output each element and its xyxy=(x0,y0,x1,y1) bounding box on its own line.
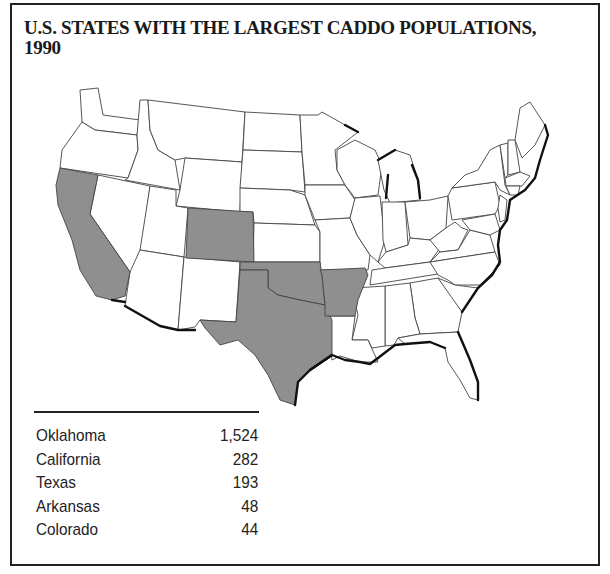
population-value: 48 xyxy=(241,495,258,519)
coastline-pacific-south xyxy=(112,300,125,302)
population-value: 1,524 xyxy=(220,424,258,448)
state-new-mexico xyxy=(178,257,240,330)
table-row: Arkansas 48 xyxy=(36,495,258,519)
state-florida xyxy=(398,332,478,400)
state-kansas xyxy=(253,223,320,262)
population-table: Oklahoma 1,524 California 282 Texas 193 … xyxy=(36,424,258,542)
table-row: Texas 193 xyxy=(36,471,258,495)
table-row: California 282 xyxy=(36,448,258,472)
state-south-dakota xyxy=(240,150,305,192)
state-wyoming xyxy=(176,158,242,212)
state-name: Arkansas xyxy=(36,495,100,519)
state-colorado xyxy=(186,208,254,262)
state-name: Colorado xyxy=(36,518,98,542)
state-indiana xyxy=(382,202,408,252)
population-value: 44 xyxy=(241,518,258,542)
title-line-1: U.S. STATES WITH THE LARGEST CADDO POPUL… xyxy=(24,18,584,38)
title-line-2: 1990 xyxy=(24,38,584,58)
state-michigan xyxy=(378,150,420,203)
population-value: 282 xyxy=(233,448,259,472)
state-name: California xyxy=(36,448,101,472)
state-maine xyxy=(515,102,545,158)
table-row: Colorado 44 xyxy=(36,518,258,542)
state-new-jersey xyxy=(498,195,507,222)
state-iowa xyxy=(305,185,355,220)
state-north-dakota xyxy=(243,112,302,152)
us-map xyxy=(40,80,560,410)
population-value: 193 xyxy=(233,471,259,495)
state-montana xyxy=(148,100,245,162)
state-name: Texas xyxy=(36,471,76,495)
chart-title: U.S. STATES WITH THE LARGEST CADDO POPUL… xyxy=(24,18,584,58)
table-row: Oklahoma 1,524 xyxy=(36,424,258,448)
table-divider xyxy=(34,411,259,413)
state-name: Oklahoma xyxy=(36,424,106,448)
